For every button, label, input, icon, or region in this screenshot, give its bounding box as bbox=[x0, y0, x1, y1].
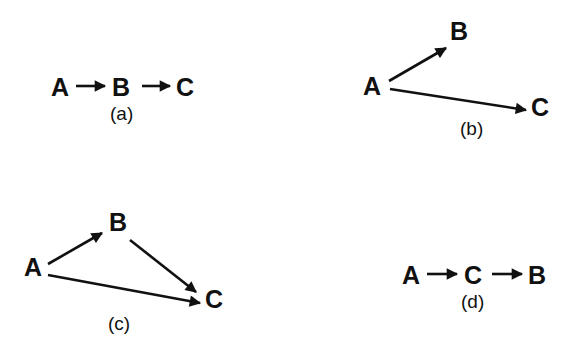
caption-a: (a) bbox=[110, 103, 133, 124]
caption-d: (d) bbox=[461, 291, 484, 312]
node-a-C: C bbox=[176, 73, 194, 101]
edge-c-B-to-C bbox=[130, 240, 196, 292]
edge-c-A-to-C bbox=[48, 275, 200, 303]
causal-diagram-figure: A B C (a) A B C (b) A B C (c) A C B (d) bbox=[0, 0, 573, 343]
node-a-A: A bbox=[51, 73, 69, 101]
node-c-A: A bbox=[24, 253, 42, 281]
caption-c: (c) bbox=[108, 313, 130, 334]
edge-c-A-to-B bbox=[48, 233, 102, 264]
node-c-C: C bbox=[205, 285, 223, 313]
node-b-B: B bbox=[450, 17, 468, 45]
node-c-B: B bbox=[109, 208, 127, 236]
caption-b: (b) bbox=[460, 118, 483, 139]
node-b-A: A bbox=[363, 72, 381, 100]
edge-b-A-to-B bbox=[389, 48, 446, 81]
node-a-B: B bbox=[112, 73, 130, 101]
edge-b-A-to-C bbox=[390, 89, 526, 110]
node-d-B: B bbox=[528, 261, 546, 289]
panel-b: A B C (b) bbox=[363, 17, 549, 139]
node-b-C: C bbox=[531, 93, 549, 121]
panel-d: A C B (d) bbox=[402, 261, 546, 312]
panel-c: A B C (c) bbox=[24, 208, 223, 334]
node-d-C: C bbox=[464, 261, 482, 289]
panel-a: A B C (a) bbox=[51, 73, 194, 124]
node-d-A: A bbox=[402, 261, 420, 289]
